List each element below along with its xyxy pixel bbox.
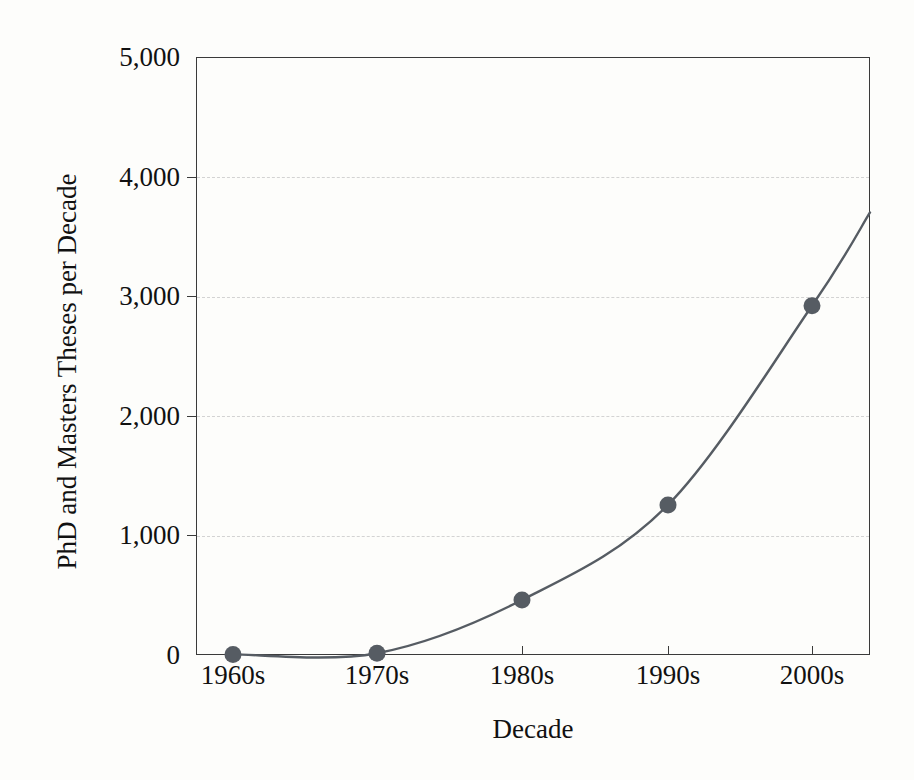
- y-tick-label-3000: 3,000: [70, 283, 180, 310]
- x-tick-mark-1980s: [522, 646, 523, 655]
- y-tick-label-1000: 1,000: [70, 522, 180, 549]
- chart-page: 0 1,000 2,000 3,000 4,000 5,000 1960s 19…: [0, 0, 914, 780]
- y-tick-mark-1000: [187, 535, 196, 536]
- x-tick-label-1980s: 1980s: [442, 662, 602, 689]
- y-tick-label-2000: 2,000: [70, 403, 180, 430]
- gridline-3000: [197, 297, 869, 298]
- x-tick-label-2000s: 2000s: [732, 662, 892, 689]
- y-tick-mark-2000: [187, 416, 196, 417]
- y-tick-mark-4000: [187, 177, 196, 178]
- gridline-2000: [197, 416, 869, 417]
- x-tick-mark-1990s: [668, 646, 669, 655]
- x-tick-mark-2000s: [812, 646, 813, 655]
- x-tick-label-1960s: 1960s: [153, 662, 313, 689]
- x-axis-title: Decade: [196, 714, 870, 745]
- x-tick-label-1990s: 1990s: [588, 662, 748, 689]
- plot-area: [196, 57, 870, 655]
- gridline-4000: [197, 177, 869, 178]
- y-axis-title: PhD and Masters Theses per Decade: [52, 52, 83, 692]
- y-tick-mark-3000: [187, 296, 196, 297]
- y-tick-label-4000: 4,000: [70, 164, 180, 191]
- gridline-1000: [197, 536, 869, 537]
- y-tick-label-5000: 5,000: [70, 44, 180, 71]
- x-tick-label-1970s: 1970s: [297, 662, 457, 689]
